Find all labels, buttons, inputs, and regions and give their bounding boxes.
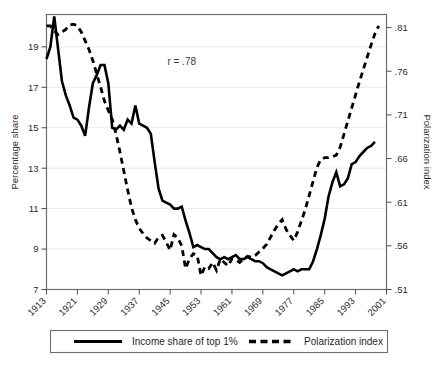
- y-tick-label-left: 19: [28, 41, 39, 52]
- y-tick-label-right: .81: [395, 22, 408, 33]
- y-tick-label-right: .66: [395, 153, 408, 164]
- y-axis-title-right: Polarization index: [422, 115, 433, 190]
- legend-label-polarization-index: Polarization index: [304, 336, 383, 347]
- y-tick-label-left: 17: [28, 82, 39, 93]
- dual-axis-line-chart: 791113151719 .51.56.61.66.71.76.81 19131…: [0, 0, 438, 368]
- chart-figure: 791113151719 .51.56.61.66.71.76.81 19131…: [0, 0, 438, 368]
- legend-label-income-share: Income share of top 1%: [132, 336, 238, 347]
- chart-legend: Income share of top 1% Polarization inde…: [51, 331, 388, 353]
- y-tick-label-left: 7: [33, 284, 38, 295]
- y-tick-label-right: .56: [395, 240, 408, 251]
- y-axis-title-left: Percentage share: [9, 115, 20, 190]
- y-tick-label-right: .61: [395, 197, 408, 208]
- y-tick-label-left: 11: [29, 203, 39, 214]
- y-tick-label-right: .71: [395, 109, 408, 120]
- y-tick-label-right: .51: [395, 284, 408, 295]
- correlation-annotation: r = .78: [167, 56, 196, 67]
- y-tick-label-left: 9: [33, 243, 38, 254]
- y-tick-label-left: 13: [28, 163, 39, 174]
- y-tick-label-right: .76: [395, 66, 408, 77]
- y-tick-label-left: 15: [28, 122, 39, 133]
